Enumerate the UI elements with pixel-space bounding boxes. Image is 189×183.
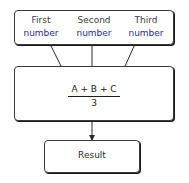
input-label-line2: number: [121, 27, 171, 40]
input-third-number: Third number: [121, 14, 171, 40]
input-first-number: First number: [16, 14, 66, 40]
formula-numerator: A + B + C: [68, 84, 119, 97]
input-second-number: Second number: [69, 14, 119, 40]
inputs-box: First number Second number Third number: [14, 10, 174, 45]
input-label-line1: Second: [69, 14, 119, 27]
average-formula: A + B + C 3: [15, 84, 173, 109]
input-label-line1: Third: [121, 14, 171, 27]
formula-box: A + B + C 3: [14, 66, 174, 121]
formula-denominator: 3: [15, 98, 173, 109]
input-label-line2: number: [16, 27, 66, 40]
input-label-line1: First: [16, 14, 66, 27]
result-label: Result: [45, 150, 139, 160]
input-label-line2: number: [69, 27, 119, 40]
result-box: Result: [44, 140, 140, 173]
